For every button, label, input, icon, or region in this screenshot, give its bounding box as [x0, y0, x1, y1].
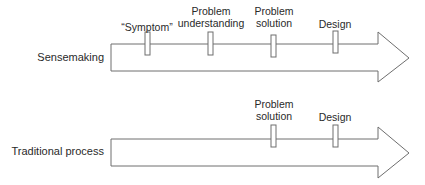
design-marker [333, 31, 338, 53]
stage-label-problem-solution: Problem solution [254, 5, 293, 29]
stage-label-line1 [319, 6, 352, 18]
symptom-marker [145, 32, 150, 55]
problem-solution-marker [271, 35, 276, 57]
sensemaking-label: Sensemaking [37, 51, 104, 64]
sensemaking-arrow [111, 32, 409, 82]
stage-label-line2: Design [319, 18, 352, 30]
traditional-stage-label-problem-solution: Problem solution [254, 98, 293, 122]
stage-label-problem-understanding: Problem understanding [178, 5, 245, 29]
stage-label-line1: Problem [254, 5, 293, 17]
stage-label-line2: solution [254, 110, 293, 122]
stage-label-design: Design [319, 6, 352, 30]
problem-understanding-marker [208, 32, 213, 55]
stage-label-line2: understanding [178, 17, 245, 29]
stage-label-line1: Problem [178, 5, 245, 17]
stage-label-line1 [319, 99, 352, 111]
traditional-design-marker [333, 125, 338, 147]
traditional-problem-solution-marker [271, 125, 276, 147]
stage-label-line2: Design [319, 111, 352, 123]
stage-label-line2: solution [254, 17, 293, 29]
stage-label-symptom: “Symptom” [121, 9, 172, 33]
stage-label-line1 [121, 9, 172, 21]
traditional-process-arrow [111, 127, 409, 178]
stage-label-line2: “Symptom” [121, 21, 172, 33]
traditional-stage-label-design: Design [319, 99, 352, 123]
stage-label-line1: Problem [254, 98, 293, 110]
traditional-process-label: Traditional process [11, 145, 104, 158]
